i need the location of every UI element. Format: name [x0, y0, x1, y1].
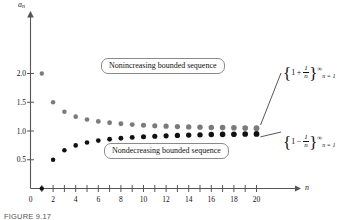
data-point: [186, 124, 191, 129]
data-point: [164, 124, 169, 129]
brace-open-lower: {: [283, 133, 291, 152]
x-tick-label: 18: [224, 195, 244, 204]
data-point: [40, 71, 44, 75]
data-point: [85, 140, 90, 145]
figure-container: an n 02468101214161820 0.51.01.52.0 Noni…: [0, 0, 340, 220]
data-point: [85, 117, 90, 122]
lower-denominator: n: [303, 142, 309, 149]
figure-caption: FIGURE 9.17: [4, 212, 51, 220]
data-point: [209, 125, 214, 130]
series-label-upper: {1+1n}∞n = 1: [283, 64, 335, 84]
data-point: [220, 125, 226, 131]
data-point: [141, 123, 146, 128]
upper-fraction: 1n: [303, 65, 309, 80]
x-tick-label: 12: [156, 195, 176, 204]
y-tick-label: 1.0: [2, 127, 26, 136]
data-point: [96, 138, 101, 143]
callout-nonincreasing: Nonincreasing bounded sequence: [101, 58, 225, 74]
data-point: [141, 134, 146, 139]
x-tick-label: 0: [21, 195, 41, 204]
series-label-lower: {1−1n}∞n = 1: [283, 133, 335, 153]
data-point: [62, 148, 67, 153]
y-tick-label: 2.0: [2, 69, 26, 78]
data-point: [175, 133, 180, 138]
x-tick-label: 6: [88, 195, 108, 204]
x-tick-label: 2: [43, 195, 63, 204]
data-point: [220, 132, 226, 138]
data-point: [96, 119, 101, 124]
y-axis-subscript: n: [22, 3, 25, 9]
x-tick-label: 4: [66, 195, 86, 204]
lower-subscript-n1: n = 1: [322, 142, 335, 148]
leader-line-lower: [261, 132, 282, 137]
data-point: [186, 132, 191, 137]
data-point: [107, 137, 112, 142]
data-point: [118, 136, 123, 141]
lower-operator: −: [297, 137, 302, 146]
lower-fraction: 1n: [303, 134, 309, 149]
data-point: [51, 158, 55, 162]
x-tick-label: 20: [247, 195, 267, 204]
upper-subscript-n1: n = 1: [322, 73, 335, 79]
data-points-group: [40, 71, 260, 190]
axes-group: [31, 12, 301, 189]
lower-superscript-infinity: ∞: [317, 134, 322, 142]
data-point: [118, 121, 123, 126]
x-axis-label: n: [305, 183, 309, 192]
data-point: [197, 124, 202, 129]
x-tick-label: 10: [134, 195, 154, 204]
upper-denominator: n: [303, 73, 309, 80]
data-point: [73, 143, 78, 148]
y-axis-label: an: [18, 0, 25, 9]
callout-nondecreasing: Nondecreasing bounded sequence: [104, 143, 229, 159]
data-point: [242, 131, 248, 137]
upper-one: 1: [291, 68, 295, 77]
data-point: [242, 125, 248, 131]
data-point: [254, 125, 260, 131]
data-point: [40, 186, 44, 190]
lower-one: 1: [291, 137, 295, 146]
y-tick-label: 1.5: [2, 98, 26, 107]
data-point: [209, 132, 214, 137]
upper-superscript-infinity: ∞: [317, 65, 322, 73]
leader-lines-group: [261, 73, 282, 137]
data-point: [152, 123, 157, 128]
data-point: [231, 125, 237, 131]
x-tick-label: 14: [179, 195, 199, 204]
data-point: [254, 131, 260, 137]
data-point: [51, 100, 55, 104]
leader-line-upper: [261, 73, 282, 125]
upper-operator: +: [297, 68, 302, 77]
data-point: [62, 110, 67, 115]
data-point: [130, 122, 135, 127]
data-point: [164, 133, 169, 138]
data-point: [175, 124, 180, 129]
data-point: [130, 135, 135, 140]
data-point: [231, 131, 237, 137]
data-point: [107, 120, 112, 125]
data-point: [152, 134, 157, 139]
x-tick-label: 8: [111, 195, 131, 204]
x-tick-label: 16: [201, 195, 221, 204]
data-point: [73, 114, 78, 119]
brace-open-upper: {: [283, 64, 291, 83]
data-point: [197, 132, 202, 137]
chart-plot: [0, 0, 340, 220]
y-tick-label: 0.5: [2, 155, 26, 164]
